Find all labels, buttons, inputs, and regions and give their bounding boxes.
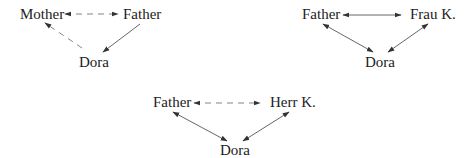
diagram-father-fraok-dora: Father Frau K. Dora [302, 6, 456, 70]
node-dora: Dora [220, 142, 250, 158]
node-father: Father [302, 6, 340, 22]
edge-frau-k-dora-bidirectional [388, 24, 428, 52]
node-dora: Dora [79, 54, 109, 70]
node-mother: Mother [20, 6, 64, 22]
node-herr-k: Herr K. [270, 94, 316, 110]
node-dora: Dora [365, 54, 395, 70]
edge-father-dora-bidirectional [173, 112, 227, 141]
edge-father-to-dora [103, 24, 140, 52]
relationship-diagrams: Mother Father Dora Father Frau K. Dora F… [0, 0, 471, 158]
diagram-mother-father-dora: Mother Father Dora [20, 6, 161, 70]
edge-dora-to-mother-dashed [45, 23, 82, 48]
node-frau-k: Frau K. [410, 6, 456, 22]
edge-father-dora-bidirectional [323, 24, 373, 52]
edge-herr-k-dora-bidirectional [243, 112, 289, 141]
node-father: Father [123, 6, 161, 22]
node-father: Father [153, 94, 191, 110]
diagram-father-herr-k-dora: Father Herr K. Dora [153, 94, 316, 158]
